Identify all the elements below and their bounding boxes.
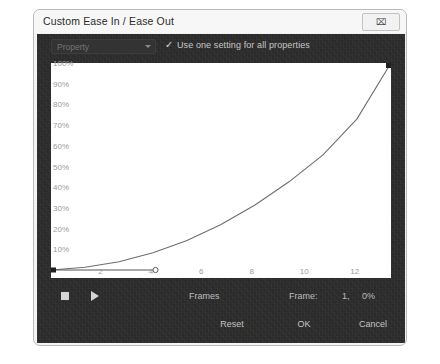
dialog-titlebar: Custom Ease In / Ease Out ⌧ xyxy=(34,10,406,33)
y-tick-label: 20% xyxy=(53,225,69,234)
frame-percent-value: 0% xyxy=(362,291,375,301)
x-tick-label: 6 xyxy=(199,267,203,276)
frame-number-value: 1, xyxy=(342,291,350,301)
y-tick-label: 30% xyxy=(53,204,69,213)
use-one-setting-label: Use one setting for all properties xyxy=(177,40,310,50)
dialog-footer: Reset OK Cancel xyxy=(37,312,405,338)
close-button[interactable]: ⌧ xyxy=(362,13,400,31)
custom-ease-dialog: Custom Ease In / Ease Out ⌧ Property ✓ U… xyxy=(33,9,407,346)
close-icon: ⌧ xyxy=(376,18,386,27)
y-tick-label: 50% xyxy=(53,163,69,172)
chevron-down-icon xyxy=(145,45,151,48)
cancel-button[interactable]: Cancel xyxy=(350,316,396,332)
property-select[interactable]: Property xyxy=(51,39,156,54)
y-tick-label: 80% xyxy=(53,100,69,109)
dialog-title: Custom Ease In / Ease Out xyxy=(43,15,174,27)
ease-curve-graph[interactable]: 10%20%30%40%50%60%70%80%90%100% 24681012 xyxy=(51,63,391,278)
frame-readout-label: Frame: xyxy=(289,291,318,301)
ease-toolbar: Property ✓ Use one setting for all prope… xyxy=(37,34,405,60)
y-tick-label: 70% xyxy=(53,121,69,130)
x-tick-label: 12 xyxy=(350,267,359,276)
y-tick-label: 60% xyxy=(53,142,69,151)
control-handles[interactable] xyxy=(51,63,391,273)
y-tick-label: 90% xyxy=(53,80,69,89)
end-anchor[interactable] xyxy=(386,63,391,68)
use-one-setting-checkbox[interactable]: ✓ Use one setting for all properties xyxy=(165,40,310,50)
play-icon[interactable] xyxy=(91,291,99,301)
stop-icon[interactable] xyxy=(61,292,69,300)
reset-button[interactable]: Reset xyxy=(209,316,255,332)
start-handle[interactable] xyxy=(153,267,158,272)
x-tick-label: 2 xyxy=(98,267,102,276)
checkmark-icon: ✓ xyxy=(165,40,173,50)
ease-curve-canvas[interactable] xyxy=(51,63,391,278)
start-anchor[interactable] xyxy=(51,268,56,273)
y-tick-label: 10% xyxy=(53,245,69,254)
y-tick-label: 40% xyxy=(53,183,69,192)
dialog-body: Property ✓ Use one setting for all prope… xyxy=(37,34,405,343)
x-tick-label: 10 xyxy=(300,267,309,276)
property-select-value: Property xyxy=(57,42,89,52)
screenshot-root: Custom Ease In / Ease Out ⌧ Property ✓ U… xyxy=(0,0,440,364)
frames-label: Frames xyxy=(189,291,220,301)
ease-curve-path xyxy=(51,63,391,270)
y-tick-label: 100% xyxy=(53,59,73,68)
ok-button[interactable]: OK xyxy=(287,316,321,332)
x-tick-label: 8 xyxy=(249,267,253,276)
x-tick-label: 4 xyxy=(149,267,153,276)
curve-group xyxy=(51,63,391,270)
transport-bar: Frames Frame: 1, 0% xyxy=(37,286,405,308)
